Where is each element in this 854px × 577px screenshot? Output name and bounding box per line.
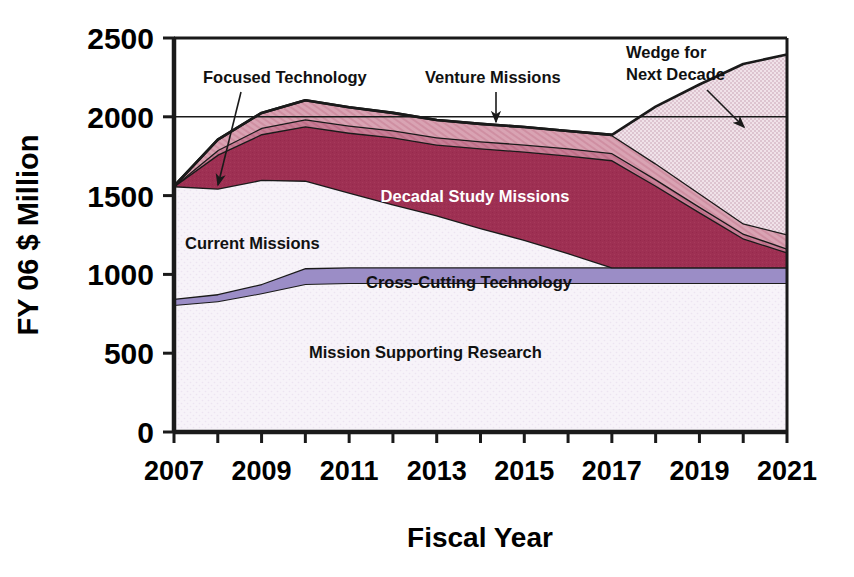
annotation-label-venture-missions: Venture Missions [425, 68, 561, 86]
x-tick-label-2009: 2009 [232, 456, 292, 486]
annotation-label-cross-cutting-technology: Cross-Cutting Technology [366, 273, 573, 291]
x-tick-label-2019: 2019 [669, 456, 729, 486]
x-axis-title: Fiscal Year [407, 522, 553, 553]
annotation-label-decadal-study-missions: Decadal Study Missions [381, 187, 570, 205]
annotation-label-wedge-line2: Next Decade [626, 65, 725, 83]
x-tick-label-2021: 2021 [757, 456, 817, 486]
y-tick-label-1500: 1500 [87, 180, 154, 213]
y-axis-tick-labels: 25002000150010005000 [87, 22, 154, 449]
annotation-label-focused-technology: Focused Technology [203, 68, 368, 86]
y-tick-label-2000: 2000 [87, 101, 154, 134]
annotation-label-mission-supporting-research: Mission Supporting Research [309, 343, 542, 361]
y-tick-label-0: 0 [137, 416, 154, 449]
x-tick-label-2015: 2015 [494, 456, 554, 486]
x-tick-label-2011: 2011 [320, 456, 379, 486]
y-axis-title: FY 06 $ Million [12, 135, 44, 336]
chart-canvas: 2500200015001000500020072009201120132015… [0, 0, 854, 577]
x-tick-label-2017: 2017 [582, 456, 642, 486]
annotation-label-current-missions: Current Missions [185, 234, 320, 252]
x-axis-tick-labels: 20072009201120132015201720192021 [144, 456, 817, 486]
x-tick-label-2007: 2007 [144, 456, 204, 486]
y-tick-label-2500: 2500 [87, 22, 154, 55]
y-tick-label-1000: 1000 [87, 258, 154, 291]
y-tick-label-500: 500 [104, 337, 154, 370]
stacked-area-chart: 2500200015001000500020072009201120132015… [0, 0, 854, 577]
x-tick-label-2013: 2013 [407, 456, 467, 486]
annotation-label-wedge-line1: Wedge for [626, 43, 707, 61]
